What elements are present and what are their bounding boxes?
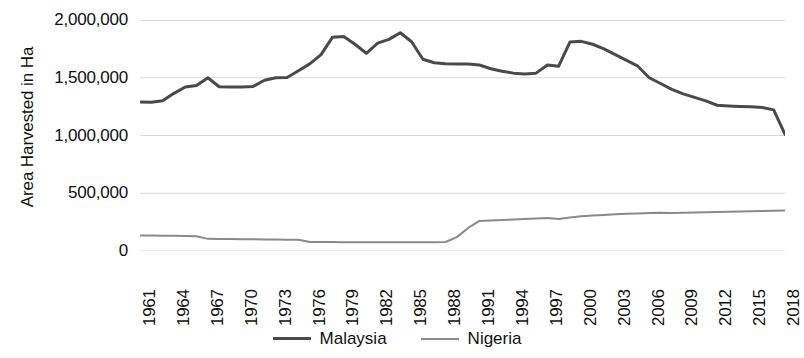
x-tick-label-1985: 1985 (411, 256, 431, 326)
series-line-malaysia (140, 33, 785, 135)
x-tick-label-1988: 1988 (445, 256, 465, 326)
x-tick-label-1994: 1994 (513, 256, 533, 326)
chart-legend: Malaysia Nigeria (0, 330, 794, 347)
x-tick-label-1976: 1976 (310, 256, 330, 326)
y-tick-label-1500000: 1,500,000 (8, 68, 128, 88)
x-tick-label-2012: 2012 (716, 256, 736, 326)
legend-line-icon-nigeria (421, 338, 459, 340)
legend-item-nigeria[interactable]: Nigeria (421, 330, 522, 347)
x-tick-label-1970: 1970 (242, 256, 262, 326)
x-tick-label-1964: 1964 (174, 256, 194, 326)
x-tick-label-1967: 1967 (208, 256, 228, 326)
x-tick-label-1997: 1997 (547, 256, 567, 326)
x-tick-label-2000: 2000 (581, 256, 601, 326)
x-tick-label-2015: 2015 (750, 256, 770, 326)
plot-area (140, 20, 785, 251)
x-tick-label-2003: 2003 (615, 256, 635, 326)
legend-line-icon-malaysia (273, 337, 311, 340)
y-tick-label-1000000: 1,000,000 (8, 126, 128, 146)
x-tick-label-1979: 1979 (343, 256, 363, 326)
legend-label-nigeria: Nigeria (468, 330, 522, 347)
legend-label-malaysia: Malaysia (320, 330, 387, 347)
legend-item-malaysia[interactable]: Malaysia (273, 330, 387, 347)
y-tick-label-500000: 500,000 (8, 183, 128, 203)
plot-svg (140, 20, 785, 251)
x-tick-label-1982: 1982 (377, 256, 397, 326)
y-tick-label-0: 0 (8, 241, 128, 261)
x-tick-label-2018: 2018 (784, 256, 804, 326)
x-tick-label-2006: 2006 (649, 256, 669, 326)
x-tick-label-1991: 1991 (479, 256, 499, 326)
x-tick-label-2009: 2009 (682, 256, 702, 326)
y-tick-label-2000000: 2,000,000 (8, 10, 128, 30)
x-tick-label-1973: 1973 (276, 256, 296, 326)
x-tick-label-1961: 1961 (140, 256, 160, 326)
series-line-nigeria (140, 211, 785, 243)
gridlines (140, 21, 785, 252)
